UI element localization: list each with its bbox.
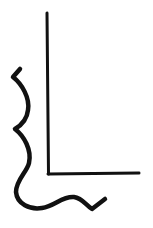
right-angle-horizontal-line [48, 173, 139, 174]
right-angle-vertical-line [47, 13, 49, 174]
line-drawing [0, 0, 153, 228]
wavy-border-curve [13, 69, 105, 209]
right-angle-shape [47, 13, 139, 174]
